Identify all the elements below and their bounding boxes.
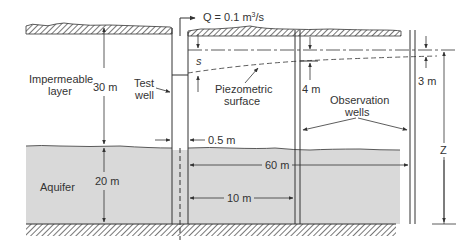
test-well-label-1: Test bbox=[134, 77, 154, 89]
piezometric-label-1: Piezometric bbox=[215, 83, 273, 95]
aquifer-fill-right bbox=[188, 148, 400, 225]
impermeable-label-1: Impermeable bbox=[29, 73, 93, 85]
ground-surface-left bbox=[26, 23, 172, 34]
base-hatch bbox=[26, 224, 396, 236]
piezometric-surface bbox=[188, 56, 437, 73]
test-well-label-2: well bbox=[134, 89, 154, 101]
drawdown-3m-label: 3 m bbox=[418, 75, 436, 87]
aquifer-diagram: Q = 0.1 m3/s s Piezometric surface 4 m 3… bbox=[0, 0, 476, 252]
distance-10m-label: 10 m bbox=[227, 192, 251, 204]
impermeable-label-2: layer bbox=[48, 85, 72, 97]
drawdown-4m-label: 4 m bbox=[302, 83, 320, 95]
drawdown-s-label: s bbox=[196, 55, 202, 67]
observation-label-2: wells bbox=[344, 106, 370, 118]
well-diameter-label: 0.5 m bbox=[208, 134, 236, 146]
impermeable-thickness-label: 30 m bbox=[93, 81, 117, 93]
aquifer-label: Aquifer bbox=[40, 181, 75, 193]
aquifer-thickness-label: 20 m bbox=[95, 175, 119, 187]
distance-60m-label: 60 m bbox=[265, 159, 289, 171]
observation-label-1: Observation bbox=[330, 94, 389, 106]
piezometric-label-2: surface bbox=[224, 95, 260, 107]
Z-label: Z bbox=[440, 144, 447, 156]
discharge-label: Q = 0.1 m3/s bbox=[203, 11, 265, 23]
